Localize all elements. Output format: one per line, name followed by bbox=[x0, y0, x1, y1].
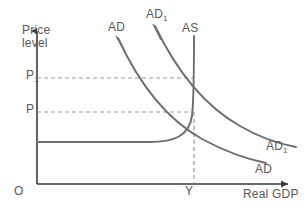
y-axis-label-line1: Price bbox=[22, 23, 50, 37]
y-axis-label-line2: level bbox=[22, 37, 50, 50]
origin-label: O bbox=[14, 185, 24, 198]
ad1-top-subscript: 1 bbox=[163, 14, 167, 23]
ad1-curve-top-label: AD1 bbox=[146, 8, 168, 25]
ad1-right-base: AD bbox=[266, 139, 283, 153]
ad-curve-top-label: AD bbox=[108, 21, 125, 34]
ad1-curve bbox=[155, 26, 296, 147]
y-axis-label: Price level bbox=[22, 24, 50, 50]
y-tick-p1-subscript: 1 bbox=[34, 75, 38, 84]
as-curve-label: AS bbox=[182, 22, 198, 35]
ad1-right-subscript: 1 bbox=[283, 146, 287, 155]
ad-curve bbox=[118, 38, 266, 163]
y-tick-p1-base: P bbox=[26, 68, 34, 82]
ad-as-diagram: Price level Real GDP O Y P1 P AD AD1 AS … bbox=[0, 0, 306, 214]
ad1-curve-right-label: AD1 bbox=[266, 140, 288, 157]
y-tick-label-p: P bbox=[26, 103, 34, 116]
y-tick-label-p1: P1 bbox=[26, 69, 39, 86]
ad1-top-base: AD bbox=[146, 7, 163, 21]
as-curve bbox=[37, 36, 194, 142]
ad-curve-right-label: AD bbox=[255, 163, 272, 176]
ad-label-leader bbox=[116, 36, 124, 50]
x-axis-label: Real GDP bbox=[243, 188, 299, 201]
x-tick-label-y: Y bbox=[185, 185, 193, 198]
y-tick-p-base: P bbox=[26, 102, 34, 116]
ad1-label-leader bbox=[153, 24, 161, 40]
